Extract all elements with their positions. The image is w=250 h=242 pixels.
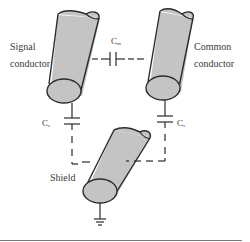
mutual-capacitor — [92, 52, 144, 66]
shield-conductor — [83, 128, 150, 203]
signal-conductor-label: Signal conductor — [10, 41, 50, 70]
common-conductor-label: Common conductor — [194, 41, 234, 70]
shield-capacitor-left — [64, 103, 90, 164]
shield-capacitor-left-label: Cs — [42, 118, 50, 128]
diagram-canvas — [0, 0, 250, 242]
ground-icon — [94, 203, 106, 225]
signal-conductor — [47, 11, 100, 103]
common-conductor — [146, 9, 193, 100]
shield-label: Shield — [50, 172, 76, 184]
mutual-capacitor-label: Cm — [111, 36, 121, 46]
bottom-rule — [0, 240, 242, 241]
shield-capacitor-right-label: Cs — [177, 118, 185, 128]
